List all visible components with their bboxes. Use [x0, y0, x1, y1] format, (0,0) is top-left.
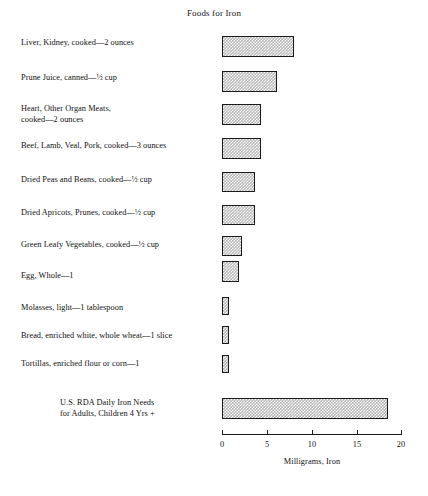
bar-heart-organ-meats [222, 104, 261, 125]
axis-caption: Milligrams, Iron [222, 457, 402, 466]
chart-row: Bread, enriched white, whole wheat—1 sli… [0, 331, 428, 357]
rda-label: U.S. RDA Daily Iron Needs for Adults, Ch… [60, 398, 210, 419]
chart-title: Foods for Iron [0, 8, 428, 18]
axis-tick [312, 430, 313, 435]
row-label: Tortillas, enriched flour or corn—1 [21, 359, 211, 370]
axis-tick [267, 430, 268, 435]
bar-us-rda-daily-iron-needs [222, 398, 388, 419]
chart-row: Dried Apricots, Prunes, cooked—½ cup [0, 208, 428, 234]
row-label: Dried Apricots, Prunes, cooked—½ cup [21, 208, 211, 219]
chart-row: Molasses, light—1 tablespoon [0, 303, 428, 329]
bar-green-leafy-vegetables [222, 236, 242, 256]
axis-tick [357, 430, 358, 435]
row-label: Green Leafy Vegetables, cooked—½ cup [21, 240, 211, 251]
chart-row-rda: U.S. RDA Daily Iron Needs for Adults, Ch… [0, 398, 428, 424]
chart-row: Dried Peas and Beans, cooked—½ cup [0, 175, 428, 201]
bar-liver-kidney [222, 36, 294, 57]
row-label: Heart, Other Organ Meats, cooked—2 ounce… [21, 104, 211, 125]
chart-figure: Foods for Iron Liver, Kidney, cooked—2 o… [0, 0, 428, 496]
chart-row: Prune Juice, canned—½ cup [0, 73, 428, 99]
row-label: Egg, Whole—1 [21, 271, 211, 282]
axis-tick [401, 430, 402, 435]
axis-tick-label-15: 15 [345, 440, 369, 449]
bar-bread-enriched [222, 326, 229, 344]
row-label: Bread, enriched white, whole wheat—1 sli… [21, 331, 211, 342]
axis-tick-label-5: 5 [255, 440, 279, 449]
row-label: Prune Juice, canned—½ cup [21, 73, 211, 84]
axis-tick [222, 430, 223, 435]
row-label: Liver, Kidney, cooked—2 ounces [21, 38, 211, 49]
row-label: Dried Peas and Beans, cooked—½ cup [21, 175, 211, 186]
bar-dried-apricots-prunes [222, 205, 255, 225]
bar-dried-peas-beans [222, 172, 255, 192]
chart-row: Tortillas, enriched flour or corn—1 [0, 359, 428, 385]
chart-row: Egg, Whole—1 [0, 271, 428, 297]
x-axis [222, 434, 402, 435]
axis-tick-label-10: 10 [300, 440, 324, 449]
row-label: Molasses, light—1 tablespoon [21, 303, 211, 314]
chart-row: Beef, Lamb, Veal, Pork, cooked—3 ounces [0, 141, 428, 167]
row-label: Beef, Lamb, Veal, Pork, cooked—3 ounces [21, 141, 211, 152]
chart-row: Heart, Other Organ Meats, cooked—2 ounce… [0, 104, 428, 130]
chart-row: Liver, Kidney, cooked—2 ounces [0, 38, 428, 64]
bar-tortillas [222, 355, 229, 373]
chart-row: Green Leafy Vegetables, cooked—½ cup [0, 240, 428, 266]
axis-tick-label-20: 20 [389, 440, 413, 449]
axis-tick-label-0: 0 [210, 440, 234, 449]
bar-egg-whole [222, 261, 239, 282]
bar-beef-lamb-veal-pork [222, 138, 261, 159]
bar-prune-juice [222, 71, 277, 92]
bar-molasses [222, 297, 229, 315]
